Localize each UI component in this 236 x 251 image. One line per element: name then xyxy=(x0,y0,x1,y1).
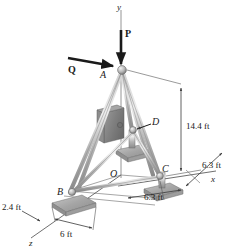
joint-B-hub xyxy=(68,188,75,195)
dimension-6-3ft-right-label: 6.3 ft xyxy=(202,160,221,170)
dimension-2-4ft xyxy=(22,211,40,221)
joint-A-hub xyxy=(118,66,127,75)
force-P-label: P xyxy=(125,28,131,39)
figure-container: y x z P Q A B C D O 14.4 ft 6.3 ft 6.3 f… xyxy=(0,0,236,251)
joint-C-label: C xyxy=(162,163,169,174)
dimension-6-3ft-lower-label: 6.3 ft xyxy=(144,192,163,202)
force-Q-label: Q xyxy=(68,64,76,75)
x-axis-label: x xyxy=(211,174,215,184)
y-axis-label: y xyxy=(117,2,121,12)
dimension-2-4ft-label: 2.4 ft xyxy=(2,202,21,212)
dimension-14-4ft-label: 14.4 ft xyxy=(186,121,210,131)
z-axis-label: z xyxy=(29,238,33,248)
dimension-6ft-label: 6 ft xyxy=(60,229,72,239)
joint-D-hub xyxy=(130,127,137,134)
base-pad-B xyxy=(52,195,96,216)
origin-O-label: O xyxy=(110,168,117,179)
joint-D-label: D xyxy=(152,116,159,127)
joint-B-label: B xyxy=(57,186,63,197)
joint-A-label: A xyxy=(100,69,106,80)
